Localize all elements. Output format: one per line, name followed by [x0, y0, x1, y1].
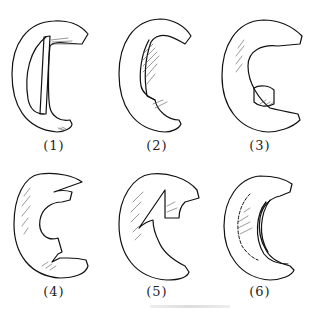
ear-drawing-6	[208, 162, 312, 292]
ear-drawing-5	[105, 162, 209, 292]
panel-6: (6)	[208, 162, 312, 312]
panel-label: (6)	[208, 284, 312, 299]
panel-3: (3)	[208, 4, 312, 154]
panel-label: (3)	[208, 138, 312, 153]
ear-drawing-4	[2, 162, 106, 292]
panel-label: (5)	[105, 284, 209, 299]
ear-drawing-2	[105, 4, 209, 134]
panel-label: (2)	[105, 138, 209, 153]
panel-1: (1)	[2, 4, 106, 154]
panel-4: (4)	[2, 162, 106, 312]
panel-label: (4)	[2, 284, 106, 299]
panel-2: (2)	[105, 4, 209, 154]
ear-drawing-3	[208, 4, 312, 134]
ear-drawing-1	[2, 4, 106, 134]
figure-caption-illegible	[150, 305, 230, 308]
panel-label: (1)	[2, 138, 106, 153]
panel-5: (5)	[105, 162, 209, 312]
